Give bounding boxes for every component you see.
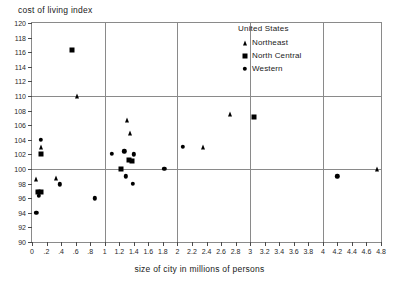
- x-axis-tick: [192, 242, 193, 246]
- y-axis-tick-label: 116: [15, 49, 26, 56]
- data-point-western: [39, 138, 43, 142]
- data-point-northeast: [128, 130, 132, 135]
- data-point-western: [124, 174, 128, 178]
- legend-item-north-central[interactable]: North Central: [238, 51, 330, 60]
- x-axis-tick-label: .4: [58, 248, 64, 255]
- y-axis-tick: [28, 140, 32, 141]
- y-axis-tick-label: 120: [14, 20, 26, 27]
- x-axis-tick: [32, 242, 33, 246]
- x-axis-tick: [105, 242, 106, 246]
- data-point-northeast: [375, 167, 379, 172]
- gridline-horizontal: [32, 96, 381, 97]
- data-point-north-central: [130, 158, 135, 163]
- gridline-vertical: [105, 23, 106, 242]
- square-marker-icon: [238, 51, 252, 60]
- y-axis-tick: [28, 169, 32, 170]
- data-point-northeast: [228, 111, 232, 116]
- data-point-northeast: [39, 145, 43, 150]
- data-point-western: [110, 151, 114, 155]
- y-axis-tick-label: 108: [14, 107, 26, 114]
- x-axis-tick: [352, 242, 353, 246]
- x-axis-tick: [250, 242, 251, 246]
- x-axis-tick: [47, 242, 48, 246]
- data-point-western: [34, 211, 38, 215]
- x-axis-tick-label: 4.4: [347, 248, 357, 255]
- y-axis-tick-label: 96: [18, 195, 26, 202]
- x-axis-tick: [236, 242, 237, 246]
- legend-title: United States: [238, 24, 330, 33]
- y-axis-tick: [28, 227, 32, 228]
- x-axis-tick: [163, 242, 164, 246]
- x-axis-tick-label: .6: [73, 248, 79, 255]
- y-axis-tick-label: 102: [14, 151, 26, 158]
- y-axis-tick-label: 106: [14, 122, 26, 129]
- x-axis-tick: [366, 242, 367, 246]
- x-axis-tick-label: 2.6: [216, 248, 226, 255]
- x-axis-tick: [279, 242, 280, 246]
- data-point-western: [132, 152, 136, 156]
- x-axis-tick-label: 2.4: [202, 248, 212, 255]
- x-axis-title: size of city in millions of persons: [0, 264, 399, 274]
- y-axis-tick: [28, 125, 32, 126]
- gridline-horizontal: [32, 169, 381, 170]
- data-point-western: [180, 145, 184, 149]
- x-axis-tick-label: 1.6: [143, 248, 153, 255]
- x-axis-tick: [148, 242, 149, 246]
- x-axis-tick-label: .8: [87, 248, 93, 255]
- x-axis-tick: [323, 242, 324, 246]
- x-axis-tick: [308, 242, 309, 246]
- x-axis-tick-label: 3.6: [289, 248, 299, 255]
- legend-item-label: Western: [252, 64, 283, 73]
- x-axis-tick-label: 3.2: [260, 248, 270, 255]
- x-axis-tick-label: 3.4: [274, 248, 284, 255]
- legend-item-western[interactable]: Western: [238, 64, 330, 73]
- x-axis-tick-label: 1.2: [114, 248, 124, 255]
- y-axis-tick-label: 100: [14, 166, 26, 173]
- x-axis-tick-label: 2.8: [231, 248, 241, 255]
- circle-marker-icon: [238, 64, 252, 73]
- data-point-western: [36, 194, 40, 198]
- x-axis-tick-label: 3.8: [303, 248, 313, 255]
- x-axis-tick-label: 4.8: [376, 248, 386, 255]
- y-axis-tick-label: 92: [18, 224, 26, 231]
- x-axis-tick: [337, 242, 338, 246]
- data-point-western: [162, 167, 166, 171]
- x-axis-tick: [90, 242, 91, 246]
- y-axis-tick: [28, 23, 32, 24]
- data-point-northeast: [201, 145, 205, 150]
- data-point-north-central: [69, 48, 74, 53]
- x-axis-tick: [221, 242, 222, 246]
- y-axis-tick: [28, 213, 32, 214]
- x-axis-tick: [381, 242, 382, 246]
- y-axis-tick: [28, 154, 32, 155]
- x-axis-tick: [76, 242, 77, 246]
- y-axis-tick: [28, 52, 32, 53]
- data-point-north-central: [119, 167, 124, 172]
- x-axis-tick: [294, 242, 295, 246]
- data-point-western: [57, 182, 61, 186]
- y-axis-tick-label: 98: [18, 180, 26, 187]
- x-axis-tick-label: 1.4: [129, 248, 139, 255]
- legend-item-label: Northeast: [252, 38, 288, 47]
- x-axis-tick-label: 2: [175, 248, 179, 255]
- x-axis-tick: [207, 242, 208, 246]
- triangle-marker-icon: [238, 38, 252, 47]
- legend-item-northeast[interactable]: Northeast: [238, 38, 330, 47]
- legend-rows: NortheastNorth CentralWestern: [238, 38, 330, 73]
- y-axis-tick: [28, 67, 32, 68]
- legend: United States NortheastNorth CentralWest…: [238, 24, 330, 77]
- scatter-plot-figure: cost of living index 9092949698100102104…: [0, 0, 399, 283]
- data-point-north-central: [251, 115, 256, 120]
- x-axis-tick-label: 4.6: [362, 248, 372, 255]
- x-axis-tick-label: 1: [103, 248, 107, 255]
- y-axis-tick-label: 104: [14, 136, 26, 143]
- x-axis-tick: [119, 242, 120, 246]
- data-point-western: [131, 181, 135, 185]
- data-point-northeast: [54, 175, 58, 180]
- data-point-north-central: [39, 152, 44, 157]
- x-axis-tick-label: 0: [30, 248, 34, 255]
- legend-item-label: North Central: [252, 51, 302, 60]
- y-axis-title: cost of living index: [18, 5, 92, 15]
- y-axis-tick: [28, 96, 32, 97]
- y-axis-tick-label: 110: [15, 93, 26, 100]
